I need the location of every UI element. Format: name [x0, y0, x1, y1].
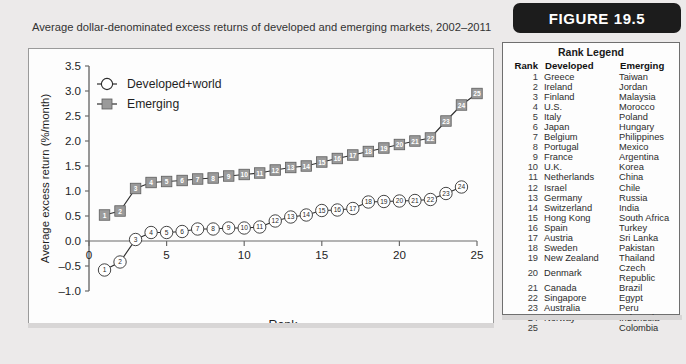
emerging-data-point: 16	[332, 153, 343, 164]
developed-data-point: 19	[378, 195, 390, 207]
rank-legend-table: Rank Developed Emerging 1GreeceTaiwan2Ir…	[507, 59, 675, 333]
emerging-data-point: 18	[363, 146, 374, 157]
y-tick-label: –1.0	[58, 284, 81, 297]
rank-legend-row: 20DenmarkCzech Republic	[507, 263, 675, 283]
legend-developed-label: Developed+world	[127, 77, 222, 91]
rank-number: 9	[507, 152, 544, 162]
rank-legend-row: 3FinlandMalaysia	[507, 92, 675, 102]
rank-number: 13	[507, 193, 544, 203]
y-tick-label: 0.0	[65, 234, 81, 247]
rank-legend-header-rank: Rank	[507, 59, 544, 72]
emerging-market-name: Philippines	[619, 132, 675, 142]
emerging-point-rank-label: 19	[380, 145, 388, 152]
developed-point-rank-label: 23	[442, 190, 450, 197]
rank-number: 23	[507, 303, 544, 313]
developed-market-name	[544, 323, 619, 333]
emerging-data-point: 1	[99, 210, 110, 221]
y-axis-title: Average excess return (%/month)	[39, 94, 51, 264]
rank-number: 7	[507, 132, 544, 142]
developed-point-rank-label: 10	[241, 224, 249, 231]
developed-point-rank-label: 2	[118, 258, 122, 265]
emerging-point-rank-label: 4	[149, 179, 153, 186]
emerging-data-point: 17	[348, 150, 359, 161]
developed-point-rank-label: 14	[303, 211, 311, 218]
developed-data-point: 21	[409, 194, 421, 206]
developed-point-rank-label: 11	[256, 223, 263, 230]
developed-point-rank-label: 17	[349, 205, 357, 212]
rank-number: 11	[507, 172, 544, 182]
rank-legend-panel: Rank Legend Rank Developed Emerging 1Gre…	[502, 42, 680, 315]
developed-data-point: 17	[347, 202, 359, 214]
rank-number: 20	[507, 263, 544, 283]
developed-market-name: Italy	[544, 112, 619, 122]
developed-data-point: 9	[222, 222, 234, 234]
emerging-data-point: 13	[286, 162, 297, 173]
developed-market-name: Australia	[544, 303, 619, 313]
rank-number: 19	[507, 253, 544, 263]
figure-caption: Average dollar-denominated excess return…	[32, 21, 491, 33]
developed-point-rank-label: 21	[411, 197, 419, 204]
rank-legend-row: 21CanadaBrazil	[507, 283, 675, 293]
developed-point-rank-label: 15	[318, 207, 326, 214]
x-tick-label: 20	[393, 248, 406, 261]
developed-point-rank-label: 9	[227, 224, 231, 231]
excess-returns-line-chart: –1.0–0.50.00.51.01.52.02.53.03.505101520…	[29, 49, 493, 324]
x-tick-label: 15	[315, 248, 328, 261]
developed-data-point: 24	[455, 181, 467, 193]
developed-point-rank-label: 7	[196, 225, 200, 232]
emerging-market-name: South Africa	[619, 213, 675, 223]
emerging-point-rank-label: 16	[334, 155, 342, 162]
developed-point-rank-label: 3	[134, 236, 138, 243]
developed-point-rank-label: 16	[334, 206, 342, 213]
rank-legend-header-row: Rank Developed Emerging	[507, 59, 675, 72]
developed-point-rank-label: 6	[180, 228, 184, 235]
chart-panel-shadow	[28, 323, 494, 328]
emerging-market-name: Mexico	[619, 142, 675, 152]
legend-developed-marker	[101, 78, 112, 89]
emerging-data-point: 23	[441, 116, 452, 127]
emerging-market-name: Korea	[619, 162, 675, 172]
developed-market-name: Spain	[544, 223, 619, 233]
rank-legend-row: 9FranceArgentina	[507, 152, 675, 162]
rank-number: 21	[507, 283, 544, 293]
emerging-data-point: 8	[208, 173, 219, 184]
developed-market-name: U.S.	[544, 102, 619, 112]
rank-number: 5	[507, 112, 544, 122]
emerging-data-point: 9	[223, 171, 234, 182]
rank-legend-row: 15Hong KongSouth Africa	[507, 213, 675, 223]
emerging-data-point: 20	[394, 139, 405, 150]
rank-legend-row: 16SpainTurkey	[507, 223, 675, 233]
y-tick-label: –0.5	[58, 259, 81, 272]
emerging-series-line	[105, 94, 477, 216]
rank-number: 3	[507, 92, 544, 102]
rank-legend-row: 18SwedenPakistan	[507, 243, 675, 253]
developed-market-name: Switzerland	[544, 203, 619, 213]
developed-data-point: 13	[285, 211, 297, 223]
emerging-data-point: 2	[115, 206, 126, 217]
rank-legend-row: 6JapanHungary	[507, 122, 675, 132]
emerging-point-rank-label: 25	[473, 90, 481, 97]
emerging-market-name: Russia	[619, 193, 675, 203]
emerging-data-point: 24	[456, 100, 467, 111]
emerging-market-name: Poland	[619, 112, 675, 122]
emerging-market-name: Egypt	[619, 293, 675, 303]
rank-legend-row: 7BelgiumPhilippines	[507, 132, 675, 142]
emerging-data-point: 19	[379, 143, 390, 154]
x-tick-label: 0	[86, 248, 92, 261]
emerging-point-rank-label: 14	[303, 163, 311, 170]
rank-legend-row: 12IsraelChile	[507, 183, 675, 193]
y-tick-label: 1.5	[65, 159, 81, 172]
emerging-data-point: 15	[317, 157, 328, 168]
emerging-data-point: 21	[410, 136, 421, 147]
y-tick-label: 2.5	[65, 109, 81, 122]
rank-number: 6	[507, 122, 544, 132]
developed-point-rank-label: 24	[458, 183, 466, 190]
developed-data-point: 16	[331, 204, 343, 216]
emerging-data-point: 3	[130, 183, 141, 194]
emerging-data-point: 25	[472, 88, 483, 99]
emerging-market-name: Malaysia	[619, 92, 675, 102]
developed-market-name: Germany	[544, 193, 619, 203]
rank-legend-row: 13GermanyRussia	[507, 193, 675, 203]
emerging-point-rank-label: 9	[227, 173, 231, 180]
emerging-point-rank-label: 12	[272, 167, 280, 174]
